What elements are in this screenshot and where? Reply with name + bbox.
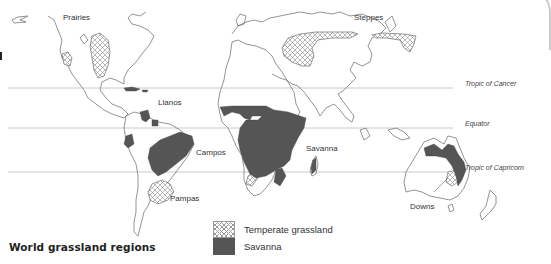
label-campos: Campos [196,148,226,157]
edge-mark [0,52,2,60]
label-tropic-of-capricorn: Tropic of Capricorn [465,164,524,171]
africa-savanna-region [220,106,306,178]
label-llanos: Llanos [158,98,182,107]
legend-label-savanna: Savanna [244,241,282,252]
page-corner [489,0,551,50]
california-grassland [62,52,72,66]
map-title: World grassland regions [9,241,156,253]
label-pampas: Pampas [170,194,199,203]
savanna-swatch-icon [213,238,235,255]
label-downs: Downs [410,202,434,211]
llanos-region-b [152,120,158,126]
steppes-east-region [372,33,416,52]
llanos-region-a [140,110,150,122]
label-tropic-of-cancer: Tropic of Cancer [465,80,516,87]
label-prairies: Prairies [63,13,90,22]
prairies-region [90,33,110,78]
africa-east-savanna [274,168,286,186]
legend-item-savanna: Savanna [213,238,333,255]
legend-item-temperate: Temperate grassland [213,221,333,238]
crosshatch-swatch-icon [213,221,235,238]
reference-lines [8,88,453,172]
downs-pointer [434,178,448,192]
label-savanna: Savanna [306,144,338,153]
campos-region [148,132,194,176]
legend: Temperate grassland Savanna [213,221,333,255]
label-steppes: Steppes [354,13,383,22]
legend-label-temperate: Temperate grassland [244,224,333,235]
steppes-west-region [282,32,358,66]
australia-savanna-region [424,144,466,186]
label-equator: Equator [465,120,490,127]
